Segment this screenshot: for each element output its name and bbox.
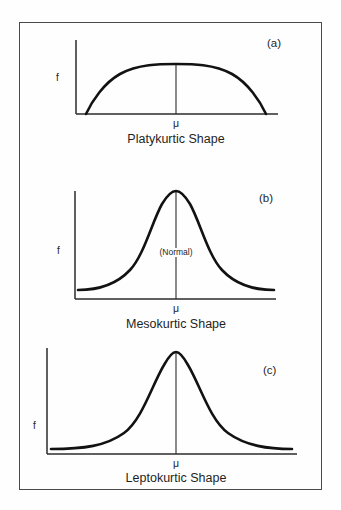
y-axis-label-a: f: [56, 73, 59, 83]
mean-label-b: μ: [173, 303, 179, 314]
panel-letter-a: (a): [267, 38, 281, 50]
panel-platykurtic: f μ Platykurtic Shape (a): [20, 23, 323, 183]
panel-letter-c: (c): [263, 365, 276, 377]
mesokurtic-plot: [20, 178, 323, 338]
leptokurtic-plot: [20, 333, 323, 491]
y-axis-label-b: f: [57, 246, 60, 256]
y-axis-label-c: f: [33, 421, 36, 431]
panel-mesokurtic: f (Normal) μ Mesokurtic Shape (b): [20, 178, 323, 338]
normal-annotation-b: (Normal): [158, 248, 193, 257]
mean-label-c: μ: [173, 458, 179, 469]
caption-a: Platykurtic Shape: [127, 133, 224, 146]
leptokurtic-curve: [51, 352, 292, 449]
mean-label-a: μ: [173, 118, 179, 129]
panel-leptokurtic: f μ Leptokurtic Shape (c): [20, 333, 323, 491]
figure-root: f μ Platykurtic Shape (a) f (Normal) μ M…: [0, 0, 341, 510]
figure-frame: f μ Platykurtic Shape (a) f (Normal) μ M…: [19, 22, 322, 490]
panel-letter-b: (b): [259, 193, 273, 205]
caption-b: Mesokurtic Shape: [126, 318, 226, 331]
caption-c: Leptokurtic Shape: [126, 472, 227, 485]
